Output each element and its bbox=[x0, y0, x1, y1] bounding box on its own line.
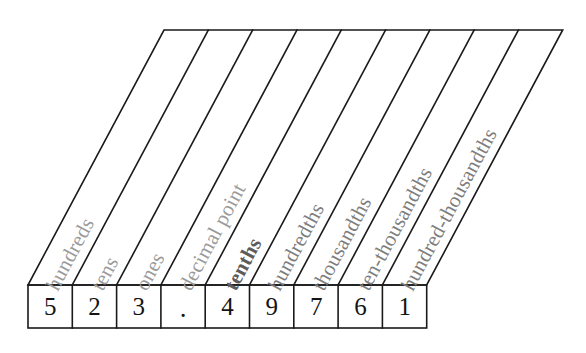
digit-cell: 4 bbox=[205, 285, 249, 328]
column-divider bbox=[338, 30, 474, 285]
chart-outline bbox=[28, 30, 563, 285]
digit-row: 523.49761 bbox=[28, 285, 427, 328]
digit-cell: 9 bbox=[250, 285, 294, 328]
column-divider bbox=[161, 30, 297, 285]
column-divider bbox=[205, 30, 341, 285]
column-divider bbox=[294, 30, 430, 285]
digit-cell: 3 bbox=[117, 285, 161, 328]
digit-cell: 7 bbox=[294, 285, 338, 328]
parallelogram-group bbox=[28, 30, 563, 285]
digit-cell: 5 bbox=[28, 285, 72, 328]
column-divider bbox=[382, 30, 518, 285]
digit-cell-decimal-point: . bbox=[161, 285, 205, 328]
column-divider bbox=[72, 30, 208, 285]
digit-cell: 6 bbox=[338, 285, 382, 328]
column-divider bbox=[117, 30, 253, 285]
place-value-chart: hundredstensonesdecimal pointtenthshundr… bbox=[0, 0, 586, 353]
digit-cell: 1 bbox=[383, 285, 427, 328]
digit-cell: 2 bbox=[72, 285, 116, 328]
column-divider bbox=[250, 30, 386, 285]
